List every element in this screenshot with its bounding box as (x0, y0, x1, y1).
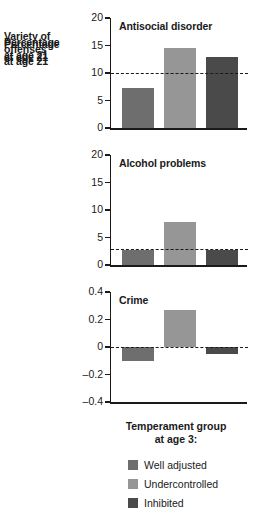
legend: Well adjustedUndercontrolledInhibited (128, 455, 257, 512)
x-axis-panel-1 (110, 128, 247, 130)
y-axis-label-line-2: offenses (4, 43, 90, 56)
bar-well-adjusted (122, 347, 154, 361)
figure-temperament-outcomes: Percentage at age 21 05101520 Antisocial… (0, 0, 257, 517)
legend-item-inhibited[interactable]: Inhibited (128, 493, 257, 512)
bar-well-adjusted (122, 88, 154, 128)
plot-area-panel-2: Alcohol problems (110, 155, 247, 265)
y-axis-label-panel-3: Variety of offenses at age 21 (4, 30, 90, 68)
x-axis-caption: Temperament group at age 3: (96, 420, 256, 446)
legend-label: Inhibited (144, 497, 184, 509)
bar-inhibited (206, 347, 238, 354)
legend-label: Undercontrolled (144, 478, 218, 490)
x-axis-panel-2 (110, 265, 247, 267)
reference-line-panel-3 (111, 347, 248, 348)
y-tick-label: 0.2 (88, 313, 103, 325)
y-tick-label: 15 (91, 39, 103, 51)
y-tick-label: 5 (97, 94, 103, 106)
y-axis-ticks-panel-2: 05101520 (0, 155, 110, 265)
y-tick-label: 20 (91, 148, 103, 160)
y-axis-label-line-3: at age 21 (4, 55, 90, 68)
bar-undercontrolled (164, 48, 196, 128)
y-tick-label: 0 (97, 121, 103, 133)
bar-inhibited (206, 57, 238, 129)
reference-line-panel-1 (111, 73, 248, 74)
bar-well-adjusted (122, 250, 154, 265)
y-tick-label: –0.2 (83, 368, 103, 380)
legend-item-well-adjusted[interactable]: Well adjusted (128, 455, 257, 474)
panel-crime: –0.4–0.200.20.4 Crime (0, 292, 257, 414)
y-tick-label: 10 (91, 203, 103, 215)
x-axis-panel-3 (110, 402, 247, 404)
bar-undercontrolled (164, 310, 196, 347)
legend-swatch-icon (128, 479, 138, 489)
y-tick-label: 15 (91, 176, 103, 188)
x-axis-caption-line-1: Temperament group (96, 420, 256, 433)
panel-alcohol-problems: 05101520 Alcohol problems (0, 155, 257, 277)
y-tick-label: 0 (97, 340, 103, 352)
legend-swatch-icon (128, 498, 138, 508)
legend-swatch-icon (128, 460, 138, 470)
x-axis-caption-line-2: at age 3: (96, 433, 256, 446)
y-tick-label: 10 (91, 66, 103, 78)
y-axis-ticks-panel-3: –0.4–0.200.20.4 (0, 292, 110, 402)
legend-item-undercontrolled[interactable]: Undercontrolled (128, 474, 257, 493)
y-tick-label: 0.4 (88, 285, 103, 297)
y-tick-label: 5 (97, 231, 103, 243)
reference-line-panel-2 (111, 249, 248, 250)
legend-label: Well adjusted (144, 459, 207, 471)
bar-inhibited (206, 250, 238, 265)
y-tick-label: 20 (91, 11, 103, 23)
plot-area-panel-3: Crime (110, 292, 247, 402)
y-tick-label: 0 (97, 258, 103, 270)
plot-area-panel-1: Antisocial disorder (110, 18, 247, 128)
y-tick-label: –0.4 (83, 395, 103, 407)
y-axis-label-line-1: Variety of (4, 30, 90, 43)
bar-undercontrolled (164, 222, 196, 265)
